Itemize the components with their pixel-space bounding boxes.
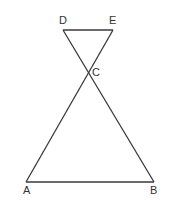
label-b: B <box>150 184 157 196</box>
label-e: E <box>109 14 116 26</box>
label-d: D <box>59 14 67 26</box>
segment-ea <box>26 30 113 182</box>
label-c: C <box>92 66 100 78</box>
label-a: A <box>23 184 31 196</box>
geometry-figure: D E C A B <box>0 0 170 202</box>
segment-db <box>63 30 154 182</box>
